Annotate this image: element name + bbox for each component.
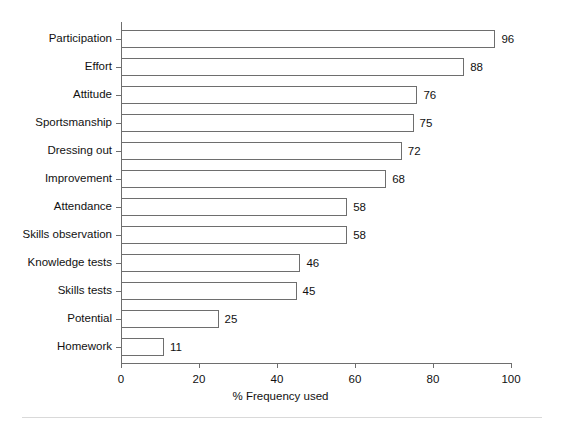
bar-value-label: 11 xyxy=(170,339,182,355)
plot-area: Participation96Effort88Attitude76Sportsm… xyxy=(121,22,511,363)
x-axis-tick-label: 0 xyxy=(118,371,124,387)
category-label: Knowledge tests xyxy=(28,254,112,270)
bar-row: Effort88 xyxy=(121,54,511,82)
bar-row: Sportsmanship75 xyxy=(121,110,511,138)
bar-row: Dressing out72 xyxy=(121,138,511,166)
bar-row: Potential25 xyxy=(121,306,511,334)
page-rule-divider xyxy=(22,417,542,418)
x-axis-tick-label: 40 xyxy=(271,371,284,387)
bar xyxy=(121,338,164,356)
bar-row: Participation96 xyxy=(121,26,511,54)
bar-value-label: 76 xyxy=(423,87,436,103)
bar xyxy=(121,114,414,132)
category-label: Improvement xyxy=(45,170,112,186)
bar-row: Skills observation58 xyxy=(121,222,511,250)
x-axis-tick-label: 80 xyxy=(427,371,440,387)
bar-chart: Participation96Effort88Attitude76Sportsm… xyxy=(0,0,561,429)
category-label: Participation xyxy=(49,30,112,46)
bar-value-label: 68 xyxy=(392,171,405,187)
bar-value-label: 88 xyxy=(470,59,483,75)
bar xyxy=(121,226,347,244)
bar xyxy=(121,30,495,48)
bar-row: Improvement68 xyxy=(121,166,511,194)
bar-row: Skills tests45 xyxy=(121,278,511,306)
bar xyxy=(121,142,402,160)
x-axis-tick xyxy=(511,363,512,368)
bar-row: Homework11 xyxy=(121,334,511,362)
bar-value-label: 45 xyxy=(303,283,316,299)
bar xyxy=(121,170,386,188)
category-label: Attitude xyxy=(73,86,112,102)
category-label: Skills tests xyxy=(58,282,112,298)
bar-value-label: 72 xyxy=(408,143,421,159)
category-label: Attendance xyxy=(54,198,112,214)
x-axis-tick xyxy=(355,363,356,368)
bar-value-label: 75 xyxy=(420,115,433,131)
bar-row: Attendance58 xyxy=(121,194,511,222)
bar-value-label: 46 xyxy=(306,255,319,271)
bar-row: Knowledge tests46 xyxy=(121,250,511,278)
category-label: Potential xyxy=(67,310,112,326)
x-axis-tick-label: 60 xyxy=(349,371,362,387)
x-axis-tick xyxy=(199,363,200,368)
category-label: Homework xyxy=(57,338,112,354)
bar xyxy=(121,198,347,216)
x-axis-tick-label: 100 xyxy=(501,371,520,387)
bar-row: Attitude76 xyxy=(121,82,511,110)
category-label: Skills observation xyxy=(23,226,112,242)
x-axis-title: % Frequency used xyxy=(0,388,561,404)
bar xyxy=(121,254,300,272)
category-label: Dressing out xyxy=(47,142,112,158)
x-axis-tick xyxy=(277,363,278,368)
bar xyxy=(121,282,297,300)
bar xyxy=(121,58,464,76)
x-axis-tick xyxy=(433,363,434,368)
bar-value-label: 25 xyxy=(225,311,238,327)
bar-value-label: 96 xyxy=(501,31,514,47)
bar xyxy=(121,86,417,104)
category-label: Effort xyxy=(85,58,112,74)
bar-value-label: 58 xyxy=(353,227,366,243)
category-label: Sportsmanship xyxy=(35,114,112,130)
x-axis-tick-label: 20 xyxy=(193,371,206,387)
bar-value-label: 58 xyxy=(353,199,366,215)
x-axis-line xyxy=(121,363,512,364)
bar xyxy=(121,310,219,328)
x-axis-tick xyxy=(121,363,122,368)
